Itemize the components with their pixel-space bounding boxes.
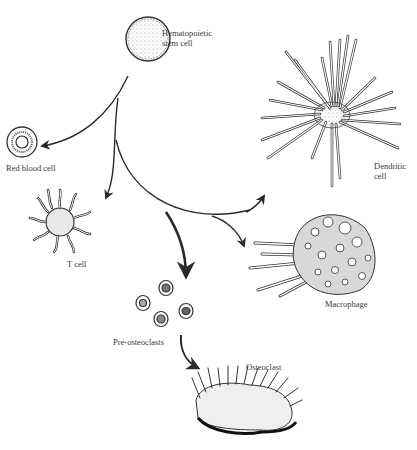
dendritic-cell-label: Dendritic cell <box>374 161 406 181</box>
macrophage-label: Macrophage <box>325 299 367 309</box>
osteoclast-label: Osteoclast <box>246 362 281 372</box>
arrow-to-t-cell <box>106 98 118 198</box>
arrow-to-pre-osteoclasts <box>166 212 186 276</box>
pre-osteoclasts-label: Pre-osteoclasts <box>113 337 164 347</box>
macrophage-icon <box>250 215 375 296</box>
cell-lineage-diagram: Hematopoietic stem cell Red blood cell T… <box>0 0 417 450</box>
pre-osteoclasts-icon <box>136 281 193 327</box>
osteoclast-icon <box>192 366 302 433</box>
red-blood-cell-label: Red blood cell <box>6 163 56 173</box>
arrow-to-macrophage <box>212 216 244 246</box>
arrow-to-dendritic-cell <box>116 140 264 214</box>
stem-cell-label: Hematopoietic stem cell <box>162 28 212 48</box>
t-cell-label: T cell <box>67 259 86 269</box>
t-cell-icon <box>30 190 90 252</box>
red-blood-cell-icon <box>7 127 37 157</box>
diagram-canvas <box>0 0 417 450</box>
lineage-arrows <box>42 76 264 368</box>
arrow-to-osteoclast <box>181 335 198 368</box>
